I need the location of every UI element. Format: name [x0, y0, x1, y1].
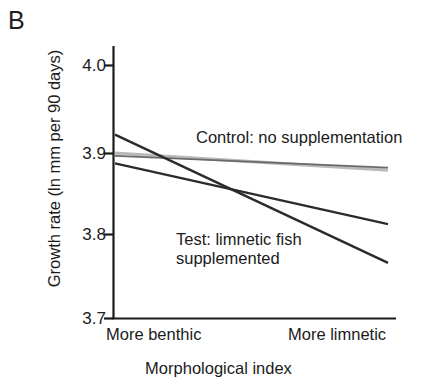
- annotation-control: Control: no supplementation: [196, 128, 402, 147]
- figure-panel-b: B Growth rate (ln mm per 90 days) 4.0 3.…: [0, 0, 437, 392]
- x-axis-title: Morphological index: [0, 360, 437, 377]
- x-category-left: More benthic: [106, 326, 201, 343]
- annotation-test-line1: Test: limnetic fish: [176, 230, 302, 248]
- series-line-test-shallow: [115, 163, 388, 224]
- annotation-test: Test: limnetic fish supplemented: [176, 230, 302, 268]
- annotation-test-line2: supplemented: [176, 249, 302, 268]
- series-line-control-dark: [115, 156, 388, 168]
- x-category-right: More limnetic: [288, 326, 386, 343]
